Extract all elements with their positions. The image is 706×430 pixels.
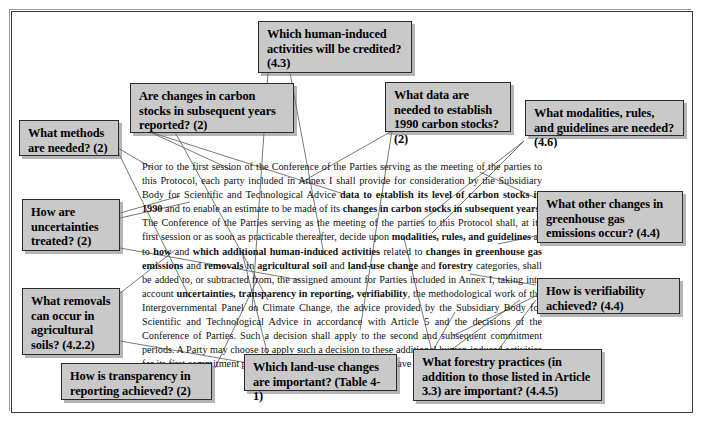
body-run: related to xyxy=(380,246,426,257)
callout-text: What removals can occur in agricultural … xyxy=(31,294,110,352)
body-emphasis: agricultural soil xyxy=(257,260,327,271)
callout-text: How is verifiability achieved? (4.4) xyxy=(546,284,645,313)
body-run: in xyxy=(243,260,257,271)
callout-text: What forestry practices (in addition to … xyxy=(422,355,590,398)
body-run: and xyxy=(327,260,348,271)
body-emphasis: removals xyxy=(204,260,243,271)
body-emphasis: how xyxy=(153,246,171,257)
callout-uncertainties-treated[interactable]: How are uncertainties treated? (2) xyxy=(22,199,120,251)
callout-other-changes-ghg-emissions[interactable]: What other changes in greenhouse gas emi… xyxy=(537,191,683,243)
callout-data-establish-1990-carbon-stocks[interactable]: What data are needed to establish 1990 c… xyxy=(385,82,511,132)
body-paragraph: Prior to the first session of the Confer… xyxy=(142,160,542,371)
body-emphasis: forestry xyxy=(439,260,473,271)
body-run: and xyxy=(418,260,439,271)
callout-text: How are uncertainties treated? (2) xyxy=(31,205,99,248)
body-emphasis: changes in carbon stocks in subsequent y… xyxy=(343,203,540,214)
callout-methods-needed[interactable]: What methods are needed? (2) xyxy=(19,120,119,156)
callout-text: Are changes in carbon stocks in subseque… xyxy=(139,89,276,132)
figure-root: Prior to the first session of the Confer… xyxy=(0,0,706,430)
callout-land-use-changes-important[interactable]: Which land-use changes are important? (T… xyxy=(244,354,397,391)
callout-forestry-practices-important[interactable]: What forestry practices (in addition to … xyxy=(413,349,602,401)
callout-changes-carbon-stocks-reported[interactable]: Are changes in carbon stocks in subseque… xyxy=(130,83,294,133)
body-emphasis: land-use change xyxy=(348,260,418,271)
body-run: and to enable an estimate to be made of … xyxy=(162,203,342,214)
body-paragraph-text: Prior to the first session of the Confer… xyxy=(142,161,542,369)
callout-transparency-reporting-achieved[interactable]: How is transparency in reporting achieve… xyxy=(61,363,212,400)
body-run: and xyxy=(183,260,204,271)
body-emphasis: which additional human-induced activitie… xyxy=(193,246,380,257)
body-emphasis: uncertainties, transparency in reporting… xyxy=(177,288,408,299)
callout-text: What other changes in greenhouse gas emi… xyxy=(546,197,663,240)
body-emphasis: modalities, rules, and guidelines xyxy=(392,231,531,242)
callout-text: What methods are needed? (2) xyxy=(28,126,107,155)
callout-verifiability-achieved[interactable]: How is verifiability achieved? (4.4) xyxy=(537,278,680,314)
callout-removals-agricultural-soils[interactable]: What removals can occur in agricultural … xyxy=(22,288,120,355)
body-run: and xyxy=(171,246,192,257)
callout-text: How is transparency in reporting achieve… xyxy=(70,369,191,398)
callout-text: Which human-induced activities will be c… xyxy=(267,27,401,70)
callout-modalities-rules-guidelines[interactable]: What modalities, rules, and guidelines a… xyxy=(525,100,684,136)
callout-human-induced-activities-credited[interactable]: Which human-induced activities will be c… xyxy=(258,21,412,73)
